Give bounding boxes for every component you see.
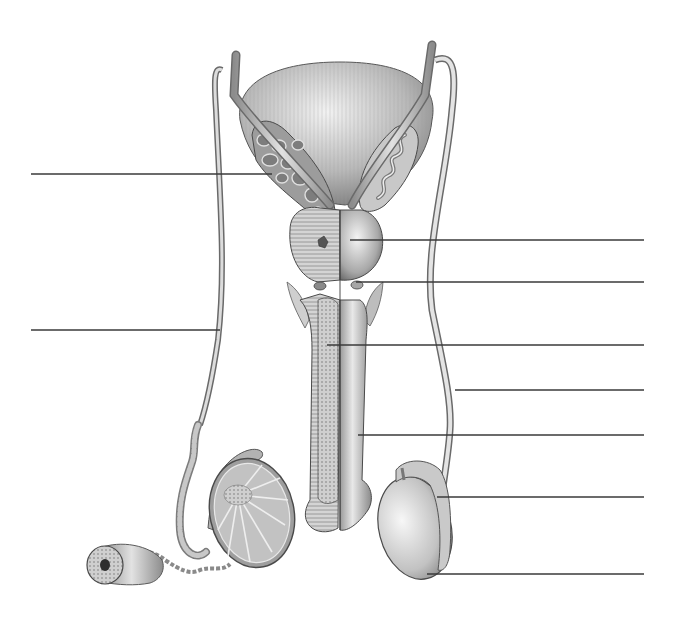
anatomy-diagram	[0, 0, 678, 626]
testis-intact	[367, 461, 462, 587]
bulbourethral-glands	[314, 281, 363, 290]
diagram-canvas	[0, 0, 678, 626]
testis-sectioned	[180, 425, 305, 576]
prostate-gland	[290, 207, 383, 282]
